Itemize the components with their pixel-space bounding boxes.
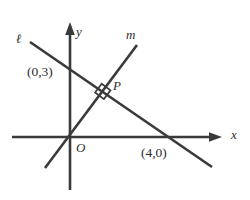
y-axis-arrow-icon [65, 22, 75, 35]
x-axis-arrow-icon [209, 132, 222, 142]
geometry-figure: x y O ℓ m P (0,3) (4,0) [0, 0, 250, 200]
origin-label: O [76, 141, 85, 154]
point-p-label: P [113, 79, 121, 92]
line-l-label: ℓ [16, 32, 21, 45]
point-x-intercept-label: (4,0) [141, 146, 167, 160]
figure-canvas [0, 0, 250, 200]
point-y-intercept-label: (0,3) [27, 65, 53, 79]
y-axis-label: y [76, 25, 82, 38]
line-m-label: m [126, 28, 135, 41]
line-l [30, 42, 212, 167]
x-axis-label: x [231, 128, 237, 141]
